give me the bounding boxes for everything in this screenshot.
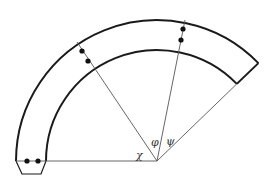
left-end-cap (16, 161, 46, 174)
dot-left-2 (85, 58, 90, 63)
outer-arc (16, 20, 258, 161)
dot-top-1 (180, 26, 185, 31)
angle-label-psi: ψ (166, 136, 175, 147)
dot-base-2 (35, 158, 40, 163)
right-end-cap (237, 63, 259, 84)
angle-label-chi: χ (136, 150, 143, 161)
dot-top-2 (178, 37, 183, 42)
dot-base-1 (24, 158, 29, 163)
radial-line-right (157, 84, 237, 161)
annular-sector-diagram: χ φ ψ (0, 0, 273, 182)
inner-arc (46, 50, 237, 161)
angle-label-phi: φ (151, 137, 159, 148)
dot-left-1 (79, 48, 84, 53)
